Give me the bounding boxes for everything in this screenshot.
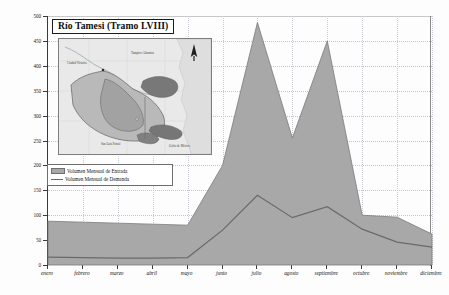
x-tick-label-abril: abril <box>146 270 156 276</box>
chart-screenshot: Volumen de Agua (Millones de m³) 0501001… <box>0 0 449 295</box>
x-tick-label-octubre: octubre <box>353 270 369 276</box>
inset-map: Ciudad Victoria Tampico-Altamira San Lui… <box>58 38 212 155</box>
legend-label-demanda: Volumen Mensual de Demanda <box>65 176 129 182</box>
x-tick-label-marzo: marzo <box>110 270 123 276</box>
x-tick-mark <box>82 265 83 269</box>
map-label-tampico: Tampico-Altamira <box>131 51 154 55</box>
legend-line-swatch-icon <box>51 179 63 180</box>
y-tick-label: 50 <box>0 237 41 243</box>
x-tick-mark <box>431 265 432 269</box>
y-tick-label: 200 <box>0 162 41 168</box>
x-tick-mark <box>187 265 188 269</box>
y-tick-label: 400 <box>0 63 41 69</box>
x-tick-mark <box>361 265 362 269</box>
chart-title: Río Tamesi (Tramo LVIII) <box>52 19 174 34</box>
y-tick-label: 500 <box>0 13 41 19</box>
y-tick-label: 450 <box>0 38 41 44</box>
x-tick-label-noviembre: noviembre <box>385 270 408 276</box>
y-tick-label: 100 <box>0 212 41 218</box>
map-label-golfo: Golfo de México <box>169 144 190 148</box>
y-tick-label: 300 <box>0 113 41 119</box>
x-tick-mark <box>291 265 292 269</box>
legend-label-entrada: Volumen Mensual de Entrada <box>67 168 127 174</box>
x-tick-label-julio: julio <box>252 270 262 276</box>
y-tick-label: 350 <box>0 88 41 94</box>
x-tick-label-agosto: agosto <box>284 270 298 276</box>
map-label-san-luis-potosi: San Luis Potosí <box>101 142 120 146</box>
y-tick-label: 0 <box>0 262 41 268</box>
y-tick-label: 150 <box>0 187 41 193</box>
north-arrow-icon <box>189 44 199 61</box>
x-tick-mark <box>152 265 153 269</box>
x-tick-label-enero: enero <box>41 270 53 276</box>
map-label-ciudad-victoria: Ciudad Victoria <box>67 61 87 65</box>
y-tick-label: 250 <box>0 138 41 144</box>
x-tick-label-septiembre: septiembre <box>315 270 338 276</box>
x-tick-mark <box>117 265 118 269</box>
x-tick-mark <box>396 265 397 269</box>
x-tick-label-diciembre: diciembre <box>420 270 441 276</box>
x-tick-mark <box>326 265 327 269</box>
x-tick-mark <box>47 265 48 269</box>
legend-item-demanda: Volumen Mensual de Demanda <box>51 175 169 183</box>
chart-legend: Volumen Mensual de Entrada Volumen Mensu… <box>47 164 173 186</box>
legend-item-entrada: Volumen Mensual de Entrada <box>51 167 169 175</box>
gridline-vertical <box>432 16 433 265</box>
x-tick-label-febrero: febrero <box>74 270 89 276</box>
x-tick-mark <box>222 265 223 269</box>
legend-area-swatch-icon <box>51 168 65 175</box>
x-tick-label-junio: junio <box>216 270 227 276</box>
x-tick-mark <box>256 265 257 269</box>
x-tick-label-mayo: mayo <box>181 270 193 276</box>
